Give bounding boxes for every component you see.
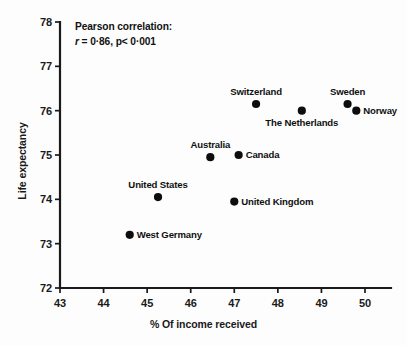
data-point-switzerland (252, 100, 260, 108)
point-label-canada: Canada (246, 150, 280, 160)
y-tick-label-72: 72 (24, 282, 52, 294)
x-tick-label-48: 48 (272, 297, 284, 309)
scatter-plot-figure: 727374757677784344454647484950 West Germ… (0, 0, 407, 345)
point-label-australia: Australia (190, 141, 230, 151)
y-tick-label-74: 74 (24, 193, 52, 205)
y-tick-label-78: 78 (24, 16, 52, 28)
point-label-norway: Norway (363, 106, 397, 116)
data-point-united-states (154, 193, 162, 201)
x-tick-label-47: 47 (228, 297, 240, 309)
annotation-statistics: r = 0·86, p< 0·001 (75, 35, 172, 50)
x-axis-title: % Of income received (0, 318, 407, 330)
x-tick-label-49: 49 (315, 297, 327, 309)
data-point-canada (235, 151, 243, 159)
y-tick-label-76: 76 (24, 105, 52, 117)
data-point-sweden (343, 100, 351, 108)
x-tick-label-43: 43 (54, 297, 66, 309)
r-value: = 0·86, p< 0·001 (82, 36, 156, 47)
data-point-norway (352, 107, 360, 115)
annotation-heading: Pearson correlation: (75, 20, 172, 35)
x-tick-label-44: 44 (98, 297, 110, 309)
y-axis-title: Life expectancy (16, 101, 28, 221)
data-point-united-kingdom (230, 197, 238, 205)
data-point-the-netherlands (298, 107, 306, 115)
y-tick-label-75: 75 (24, 149, 52, 161)
axes-group (60, 22, 391, 288)
y-tick-label-77: 77 (24, 60, 52, 72)
x-tick-label-45: 45 (141, 297, 153, 309)
point-label-the-netherlands: The Netherlands (265, 118, 338, 128)
point-label-united-states: United States (128, 181, 187, 191)
r-symbol: r (75, 36, 79, 47)
data-point-australia (206, 153, 214, 161)
plot-canvas (0, 0, 407, 345)
point-label-switzerland: Switzerland (230, 87, 282, 97)
point-label-west-germany: West Germany (137, 230, 202, 240)
data-point-west-germany (126, 231, 134, 239)
y-tick-label-73: 73 (24, 238, 52, 250)
correlation-annotation: Pearson correlation: r = 0·86, p< 0·001 (75, 20, 172, 50)
point-label-united-kingdom: United Kingdom (241, 197, 313, 207)
x-tick-label-50: 50 (359, 297, 371, 309)
x-tick-label-46: 46 (185, 297, 197, 309)
point-label-sweden: Sweden (330, 87, 365, 97)
